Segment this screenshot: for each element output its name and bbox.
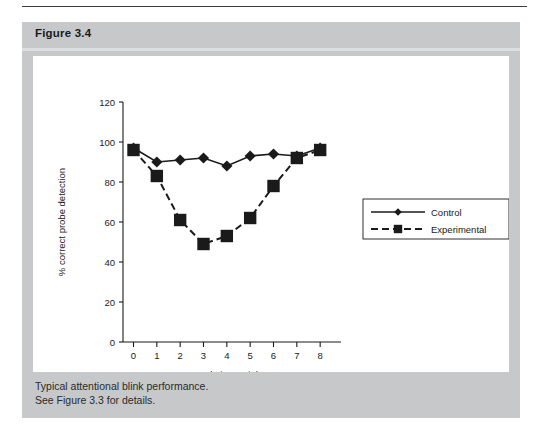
data-point-marker [267, 180, 279, 192]
svg-text:0: 0 [110, 337, 115, 348]
caption-line-1: Typical attentional blink performance. [35, 379, 208, 393]
svg-text:60: 60 [104, 217, 115, 228]
line-chart: 020406080100120012345678% correct probe … [33, 56, 509, 372]
data-point-marker [268, 148, 279, 159]
svg-text:8: 8 [318, 350, 323, 361]
legend-label-control: Control [431, 207, 462, 218]
data-point-marker [291, 152, 303, 164]
data-point-marker [221, 230, 233, 242]
svg-text:7: 7 [294, 350, 299, 361]
page-top-rule [22, 6, 527, 7]
svg-text:3: 3 [201, 350, 206, 361]
svg-text:6: 6 [271, 350, 276, 361]
chart-legend: ControlExperimental [363, 199, 509, 239]
svg-text:80: 80 [104, 177, 115, 188]
svg-text:20: 20 [104, 297, 115, 308]
data-point-marker [198, 152, 209, 163]
data-point-marker [221, 160, 232, 171]
data-point-marker [314, 144, 326, 156]
header-separator [22, 48, 520, 51]
svg-text:% correct probe detection: % correct probe detection [56, 168, 67, 276]
data-point-marker [175, 154, 186, 165]
data-point-marker [127, 144, 139, 156]
legend-label-experimental: Experimental [431, 224, 486, 235]
data-point-marker [244, 212, 256, 224]
svg-text:5: 5 [248, 350, 253, 361]
data-point-marker [197, 238, 209, 250]
svg-text:Relative serial: Relative serial [198, 369, 258, 372]
figure-caption: Typical attentional blink performance. S… [35, 379, 208, 407]
svg-text:1: 1 [154, 350, 159, 361]
svg-text:0: 0 [131, 350, 136, 361]
data-point-marker [174, 214, 186, 226]
figure-header: Figure 3.4 [22, 22, 520, 48]
caption-line-2: See Figure 3.3 for details. [35, 393, 208, 407]
svg-text:4: 4 [224, 350, 229, 361]
data-point-marker [151, 170, 163, 182]
svg-text:2: 2 [178, 350, 183, 361]
figure-title: Figure 3.4 [35, 27, 91, 39]
data-point-marker [245, 150, 256, 161]
data-point-marker [151, 156, 162, 167]
data-point-marker [394, 225, 402, 233]
svg-text:40: 40 [104, 257, 115, 268]
svg-text:120: 120 [99, 97, 115, 108]
svg-text:100: 100 [99, 137, 115, 148]
figure-box: Figure 3.4 020406080100120012345678% cor… [22, 22, 520, 418]
plot-area: 020406080100120012345678% correct probe … [33, 56, 509, 372]
